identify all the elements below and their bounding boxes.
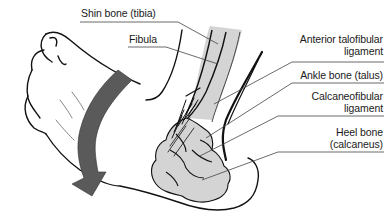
label-talus: Ankle bone (talus)	[300, 69, 383, 81]
ankle-sprain-diagram: Shin bone (tibia) Fibula Anterior talofi…	[0, 0, 391, 220]
label-fibula: Fibula	[129, 33, 157, 45]
inversion-arrow-icon	[72, 70, 132, 196]
label-tibia: Shin bone (tibia)	[81, 7, 156, 19]
label-anterior-talofibular-ligament: Anterior talofibular ligament	[300, 33, 383, 57]
label-calcaneofibular-ligament: Calcaneofibular ligament	[312, 90, 383, 114]
leg-bones	[186, 26, 242, 122]
leader-cfl	[200, 116, 278, 156]
label-calcaneus: Heel bone (calcaneus)	[330, 126, 383, 150]
